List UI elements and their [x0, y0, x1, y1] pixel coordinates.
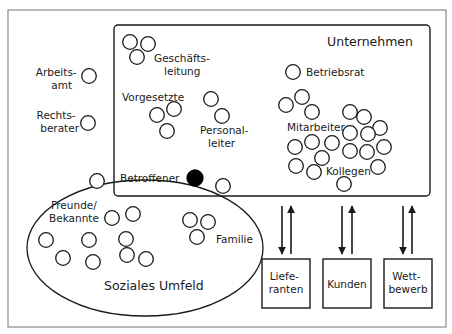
node-mitarbeiter	[295, 90, 310, 105]
node-mitarbeiter	[357, 110, 372, 125]
node-vorgesetzte	[150, 108, 165, 123]
external-box-kunden: Kunden	[323, 259, 371, 308]
node-geschaeftsleitung	[141, 37, 156, 52]
node-freunde	[119, 232, 134, 247]
label-kollegen: Kollegen	[326, 165, 371, 177]
node-mitarbeiter	[325, 136, 340, 151]
node-mitarbeiter	[305, 135, 320, 150]
svg-text:Liefe- ranten: Liefe- ranten	[269, 270, 304, 295]
node-freunde	[126, 207, 141, 222]
node-freunde	[82, 233, 97, 248]
label-familie: Familie	[216, 233, 253, 245]
node-mitarbeiter	[343, 105, 358, 120]
node-mitarbeiter	[307, 165, 322, 180]
node-mitarbeiter	[337, 177, 352, 192]
node-arbeitsamt	[82, 69, 97, 84]
svg-text:Wett- bewerb: Wett- bewerb	[388, 270, 427, 295]
label-arbeitsamt: Arbeits- amt	[36, 66, 80, 91]
node-vorgesetzte	[160, 124, 175, 139]
node-familie	[183, 213, 198, 228]
label-betriebsrat: Betriebsrat	[306, 66, 364, 78]
label-rechtsberater: Rechts- berater	[37, 109, 80, 134]
label-mitarbeiter: Mitarbeiter	[287, 121, 345, 133]
node-personalleiter	[204, 92, 219, 107]
node-personalleiter	[215, 109, 230, 124]
stakeholder-diagram: Unternehmen Soziales Umfeld Geschäfts- l…	[0, 0, 452, 334]
node-freunde	[120, 248, 135, 263]
node-betroffener-peer	[216, 179, 231, 194]
node-mitarbeiter	[343, 126, 358, 141]
label-betroffener: Betroffener	[120, 172, 180, 184]
node-mitarbeiter	[279, 98, 294, 113]
node-freunde	[105, 211, 120, 226]
node-mitarbeiter	[315, 151, 330, 166]
social-environment-title: Soziales Umfeld	[104, 278, 204, 293]
svg-text:Kunden: Kunden	[327, 278, 366, 290]
node-mitarbeiter	[377, 140, 392, 155]
node-mitarbeiter	[360, 145, 375, 160]
node-mitarbeiter	[305, 105, 320, 120]
node-freunde	[90, 174, 105, 189]
arrows	[282, 206, 412, 254]
label-freunde-bekannte: Freunde/ Bekannte	[49, 199, 100, 224]
node-mitarbeiter	[343, 144, 358, 159]
node-geschaeftsleitung	[130, 50, 145, 65]
node-freunde	[39, 233, 54, 248]
node-geschaeftsleitung	[123, 35, 138, 50]
node-mitarbeiter	[361, 127, 376, 142]
node-familie	[201, 215, 216, 230]
node-mitarbeiter	[289, 159, 304, 174]
node-rechtsberater	[81, 116, 96, 131]
node-mitarbeiter	[371, 160, 386, 175]
label-geschaeftsleitung: Geschäfts- leitung	[154, 52, 213, 77]
external-box-wettbewerb: Wett- bewerb	[384, 259, 432, 308]
node-vorgesetzte	[167, 102, 182, 117]
node-freunde	[56, 251, 71, 266]
affected-person-node	[187, 170, 203, 186]
label-personalleiter: Personal- leiter	[200, 124, 252, 149]
node-freunde	[139, 252, 154, 267]
node-mitarbeiter	[288, 140, 303, 155]
external-box-lieferanten: Liefe- ranten	[262, 259, 310, 308]
node-betriebsrat	[286, 65, 301, 80]
company-title: Unternehmen	[327, 34, 413, 49]
node-familie	[190, 230, 205, 245]
node-freunde	[86, 255, 101, 270]
